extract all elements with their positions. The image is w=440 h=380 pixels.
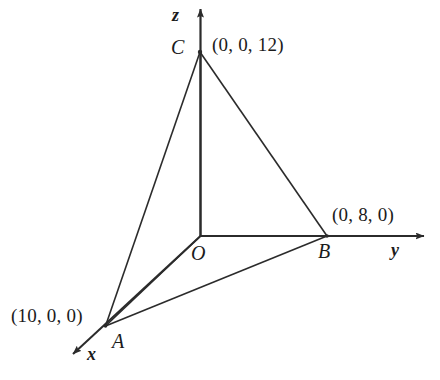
edge-c-b <box>200 52 327 236</box>
vertex-c-dot <box>198 50 202 54</box>
x-axis-label: x <box>87 345 96 363</box>
coord-label-c: (0, 0, 12) <box>212 35 284 54</box>
vertex-b-dot <box>325 234 329 238</box>
edge-c-a <box>106 52 201 326</box>
point-c-label: C <box>171 37 184 57</box>
vertex-a-dot <box>104 324 108 328</box>
axis-group <box>73 9 424 354</box>
coord-label-b: (0, 8, 0) <box>332 205 394 224</box>
tetrahedron-edges <box>106 52 328 326</box>
z-axis-label: z <box>172 6 179 24</box>
point-b-label: B <box>318 241 330 261</box>
edge-a-b <box>106 236 328 326</box>
point-o-label: O <box>191 243 205 263</box>
edge-o-a <box>106 236 201 326</box>
figure-canvas: z y x C O B A (0, 0, 12) (0, 8, 0) (10, … <box>0 0 440 380</box>
coord-label-a: (10, 0, 0) <box>11 306 83 325</box>
y-axis-label: y <box>391 241 399 259</box>
point-a-label: A <box>112 331 124 351</box>
